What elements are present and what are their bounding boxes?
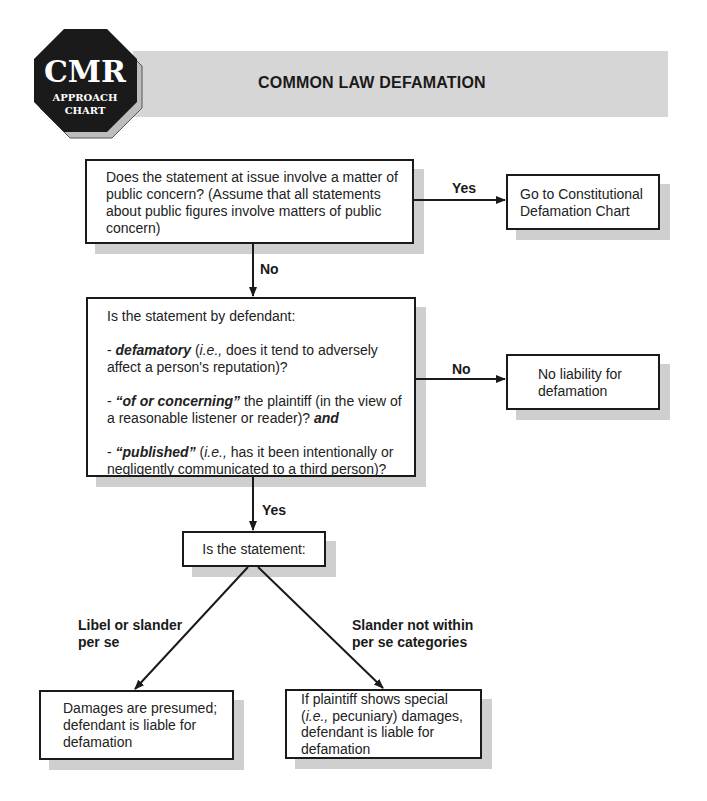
special-line3: defendant is liable for defamation (301, 724, 474, 757)
special-damages-box: If plaintiff shows special (i.e., pecuni… (285, 689, 482, 759)
edge-label-slander-not-per-se: Slander not within per se categories (352, 617, 482, 651)
special-line2-rest: pecuniary) damages, (328, 708, 463, 724)
special-line2: (i.e., pecuniary) damages, (301, 708, 474, 725)
edge-label-q2-no: No (452, 361, 471, 378)
q2-item2-prefix: - (107, 393, 116, 409)
go-constitutional-text: Go to Constitutional Defamation Chart (520, 186, 650, 220)
q2-intro: Is the statement by defendant: (107, 308, 402, 325)
no-liability-box: No liability for defamation (506, 354, 660, 410)
q2-item2-and: and (314, 410, 339, 426)
edge-label-q1-no: No (260, 261, 279, 278)
special-ie: i.e., (306, 708, 329, 724)
q2-item-of-or-concerning: - “of or concerning” the plaintiff (in t… (107, 393, 402, 427)
no-liability-text: No liability for defamation (538, 366, 628, 400)
q1-public-concern-box: Does the statement at issue involve a ma… (85, 159, 414, 244)
q2-item3-ie: i.e., (204, 444, 227, 460)
q2-item1-prefix: - (107, 342, 116, 358)
q2-item2-term: “of or concerning” (116, 393, 240, 409)
q2-item1-term: defamatory (116, 342, 191, 358)
edge-label-q2-yes: Yes (262, 502, 286, 519)
edge-label-q1-yes: Yes (452, 180, 476, 197)
edge-label-slander-not-per-se-text: Slander not within per se categories (352, 617, 473, 650)
q2-item-published: - “published” (i.e., has it been intenti… (107, 444, 402, 478)
q2-item3-prefix: - (107, 444, 116, 460)
q2-item3-term: “published” (116, 444, 196, 460)
edge-label-libel-per-se: Libel or slander per se (78, 617, 198, 651)
q2-item-defamatory: - defamatory (i.e., does it tend to adve… (107, 342, 402, 376)
q2-item3-open: ( (196, 444, 205, 460)
special-line1: If plaintiff shows special (301, 691, 474, 708)
q3-text: Is the statement: (184, 541, 324, 558)
q1-text: Does the statement at issue involve a ma… (106, 169, 400, 237)
q2-item1-open: ( (191, 342, 200, 358)
q2-item1-ie: i.e., (200, 342, 223, 358)
presumed-text: Damages are presumed; defendant is liabl… (63, 700, 222, 751)
q3-statement-type-box: Is the statement: (182, 531, 326, 567)
edge-label-libel-per-se-text: Libel or slander per se (78, 617, 182, 650)
damages-presumed-box: Damages are presumed; defendant is liabl… (39, 690, 234, 760)
go-constitutional-box: Go to Constitutional Defamation Chart (506, 174, 660, 230)
q2-elements-box: Is the statement by defendant: - defamat… (86, 297, 416, 477)
